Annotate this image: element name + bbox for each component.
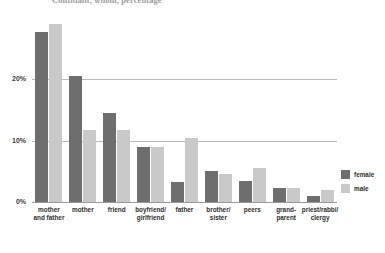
y-axis: 20%10%0% xyxy=(0,12,28,202)
bar-male xyxy=(117,130,130,202)
x-axis-label: priest/rabbi/clergy xyxy=(297,206,343,223)
chart-container: Confidant, whom, percentage 20%10%0% mot… xyxy=(0,0,385,253)
legend-label: female xyxy=(354,171,374,178)
bar-male xyxy=(219,174,232,202)
bar-male xyxy=(83,130,96,202)
bar-female xyxy=(307,196,320,202)
chart-title: Confidant, whom, percentage xyxy=(52,0,292,6)
y-axis-tick-label: 10% xyxy=(0,137,26,145)
y-axis-tick-label: 20% xyxy=(0,75,26,83)
bar-group xyxy=(205,171,232,202)
gridline-0 xyxy=(32,202,337,203)
x-axis-labels: motherand fathermotherfriendboyfriend/gi… xyxy=(32,206,337,236)
legend-swatch-icon xyxy=(341,184,350,193)
bar-male xyxy=(253,168,266,202)
y-axis-tick-label: 0% xyxy=(0,198,26,206)
x-axis-label-line: and father xyxy=(26,214,72,222)
x-axis-label-line: girlfriend xyxy=(128,214,174,222)
bar-female xyxy=(103,113,116,202)
bar-female xyxy=(239,181,252,202)
bar-male xyxy=(287,188,300,202)
bar-group xyxy=(103,113,130,202)
chart-legend: femalemale xyxy=(341,170,374,198)
plot-area xyxy=(32,12,337,202)
x-axis-label-line: clergy xyxy=(297,214,343,222)
bar-female xyxy=(273,188,286,202)
legend-swatch-icon xyxy=(341,170,350,179)
bar-male xyxy=(321,190,334,202)
bar-group xyxy=(137,147,164,202)
x-axis-label-line: sister xyxy=(195,214,241,222)
bar-male xyxy=(185,138,198,202)
x-axis-label-line: priest/rabbi/ xyxy=(297,206,343,214)
bar-male xyxy=(151,147,164,202)
bar-group xyxy=(307,190,334,202)
bar-group xyxy=(239,168,266,202)
bar-female xyxy=(35,32,48,202)
bar-group xyxy=(171,138,198,202)
bar-female xyxy=(171,182,184,202)
bar-group xyxy=(35,24,62,202)
legend-item[interactable]: male xyxy=(341,184,374,193)
bar-group xyxy=(273,188,300,202)
bar-male xyxy=(49,24,62,202)
bar-female xyxy=(137,147,150,202)
legend-label: male xyxy=(354,185,369,192)
bar-female xyxy=(205,171,218,202)
bar-group xyxy=(69,76,96,202)
legend-item[interactable]: female xyxy=(341,170,374,179)
bar-female xyxy=(69,76,82,202)
